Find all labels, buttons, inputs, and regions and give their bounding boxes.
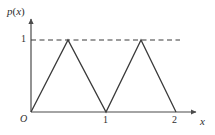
density-curve [31, 40, 176, 112]
origin-label: O [20, 114, 27, 124]
x-tick-label-2: 2 [172, 115, 177, 125]
y-axis-label: p(x) [7, 6, 25, 17]
x-tick-label-1: 1 [103, 115, 108, 125]
y-tick-label-1: 1 [21, 34, 26, 44]
y-axis-label-close-paren: ) [21, 5, 25, 17]
plot-figure: p(x) x O 1 1 2 [0, 0, 215, 135]
x-axis-label: x [200, 116, 205, 127]
